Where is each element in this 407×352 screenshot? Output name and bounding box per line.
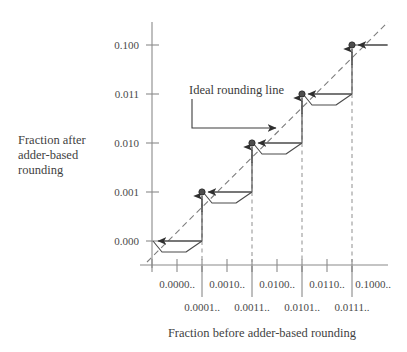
node-marker-0010: [249, 140, 255, 146]
y-tick-label-4: 0.000: [114, 235, 139, 247]
riser-arrowheads: [202, 49, 352, 212]
x-tick-lower-label-1: 0.0011..: [234, 301, 270, 313]
x-axis: [140, 259, 388, 272]
step-sag-1: [203, 192, 252, 203]
x-tick-upper-label-0: 0.0000..: [159, 278, 195, 290]
y-axis-title-line-1: Fraction after: [18, 133, 87, 147]
step-drop-lines: [202, 49, 352, 262]
node-marker-0100: [349, 42, 355, 48]
x-tick-lower-label-3: 0.0111..: [335, 301, 370, 313]
y-axis-title-line-3: rounding: [18, 163, 64, 177]
ideal-line-leader: [192, 99, 276, 128]
x-tick-upper-label-4: 0.1000..: [355, 278, 391, 290]
y-tick-label-1: 0.011: [115, 88, 139, 100]
y-axis: [146, 22, 159, 268]
rounding-transfer-function-chart: 0.100 0.011 0.010 0.001 0.000 0.0000.. 0…: [0, 0, 407, 352]
y-tick-label-2: 0.010: [114, 137, 139, 149]
x-tick-upper-label-3: 0.0110..: [309, 278, 345, 290]
ideal-rounding-line-label: Ideal rounding line: [189, 83, 285, 97]
y-tick-label-0: 0.100: [114, 39, 139, 51]
x-tick-lower-label-0: 0.0001..: [184, 301, 220, 313]
x-tick-lower-label-2: 0.0101..: [284, 301, 320, 313]
x-axis-title: Fraction before adder-based rounding: [168, 326, 357, 340]
x-tick-upper-label-2: 0.0100..: [259, 278, 295, 290]
step-node-markers: [199, 42, 355, 195]
y-axis-title-line-2: adder-based: [18, 148, 79, 162]
step-sag-0: [153, 241, 202, 252]
x-tick-upper-label-1: 0.0010..: [209, 278, 245, 290]
adder-rounding-staircase: [153, 45, 388, 252]
y-tick-label-3: 0.001: [114, 186, 139, 198]
node-marker-0011: [299, 91, 305, 97]
rounding-direction-arrows: [158, 45, 387, 241]
node-marker-0001: [199, 189, 205, 195]
figure-container: 0.100 0.011 0.010 0.001 0.000 0.0000.. 0…: [0, 0, 407, 352]
